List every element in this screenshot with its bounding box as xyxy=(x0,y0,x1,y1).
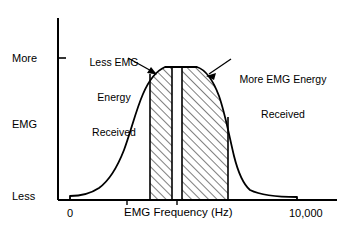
more-emg-energy-band xyxy=(182,40,228,200)
x-axis-tick-label-min: 0 xyxy=(67,207,73,219)
y-axis-title-emg: EMG xyxy=(12,118,37,130)
emg-frequency-spectrum-figure: More EMG Less 0 EMG Frequency (Hz) 10,00… xyxy=(0,0,341,233)
y-axis-label-more: More xyxy=(12,52,37,64)
less-emg-energy-annotation: Less EMG Energy Received xyxy=(76,33,152,162)
more-emg-energy-annotation-line-1: More EMG Energy xyxy=(228,74,338,86)
x-axis-title: EMG Frequency (Hz) xyxy=(124,206,233,219)
less-emg-energy-annotation-line-2: Energy xyxy=(76,92,152,104)
more-emg-energy-annotation: More EMG Energy Received xyxy=(228,50,338,144)
less-emg-energy-annotation-line-1: Less EMG xyxy=(76,57,152,69)
x-axis-tick-label-max: 10,000 xyxy=(289,207,323,219)
more-emg-energy-annotation-line-2: Received xyxy=(228,109,338,121)
y-axis-label-less: Less xyxy=(12,190,35,202)
less-emg-energy-band xyxy=(150,40,172,200)
less-emg-energy-annotation-line-3: Received xyxy=(76,127,152,139)
